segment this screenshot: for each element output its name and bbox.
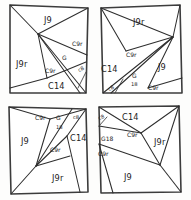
region-label-c9r: C9r	[72, 40, 83, 47]
region-label-j9: J9	[20, 136, 29, 146]
region-label-18: 18	[131, 81, 138, 87]
region-label-j9: J9	[157, 62, 166, 72]
region-label-c14: C14	[48, 81, 65, 91]
region-label-j9r: J9r	[132, 17, 145, 27]
region-label-j9r: J9r	[15, 59, 28, 69]
panel-bottom-left-svg: C9r G 18 c8 C14 J9 C9r J9r	[0, 100, 95, 200]
panel-top-right-svg: J9r C9r C14 G 18 c8 C9r J9	[95, 0, 191, 100]
region-label-c9r-lower: C9r	[98, 150, 109, 157]
region-label-g: G	[132, 72, 137, 79]
region-label-c9r-bottom: C9r	[148, 84, 159, 91]
region-label-c9r-center: C9r	[50, 146, 61, 153]
panel-top-left: J9 C9r G c8 C9r C14 J9r	[0, 0, 95, 100]
panel-bottom-right-svg: c8 C14 G18 C9r C9r J9r J9	[95, 100, 191, 200]
panel-grid: J9 C9r G c8 C9r C14 J9r	[0, 0, 191, 200]
region-label-g18: G18	[101, 135, 113, 142]
panel-bottom-right: c8 C14 G18 C9r C9r J9r J9	[95, 100, 191, 200]
region-label-c14: C14	[122, 112, 139, 122]
region-label-c9r-top: C9r	[35, 114, 46, 121]
region-label-j9: J9	[123, 172, 132, 182]
region-label-c14: C14	[101, 64, 118, 74]
panel-top-right: J9r C9r C14 G 18 c8 C9r J9	[95, 0, 191, 100]
panel-border	[99, 106, 181, 193]
figure-root: J9 C9r G c8 C9r C14 J9r	[0, 0, 191, 200]
panel-top-left-svg: J9 C9r G c8 C9r C14 J9r	[0, 0, 95, 100]
region-label-c9r-upper: C9r	[126, 51, 137, 58]
region-label-c9r-center: C9r	[45, 67, 56, 74]
region-label-j9r: J9r	[153, 137, 166, 147]
region-label-j9r: J9r	[51, 173, 64, 183]
panel-border	[9, 107, 88, 194]
region-label-c8: c8	[73, 114, 79, 120]
region-label-18: 18	[56, 124, 63, 130]
region-label-c9r-center: C9r	[127, 131, 138, 138]
region-label-g: G	[62, 54, 67, 61]
region-label-j9: J9	[43, 15, 52, 25]
region-label-c14: C14	[70, 133, 87, 143]
region-label-g: G	[56, 114, 61, 121]
panel-bottom-left: C9r G 18 c8 C14 J9 C9r J9r	[0, 100, 95, 200]
